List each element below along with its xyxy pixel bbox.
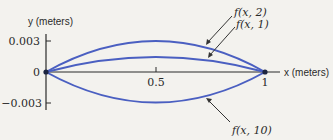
arrow-f10: [208, 100, 230, 122]
y-tick-label-zero: 0: [33, 66, 40, 79]
x-tick-label-mid: 0.5: [147, 76, 165, 89]
arrow-f2: [208, 16, 232, 42]
endpoint-right: [262, 69, 267, 74]
chart-figure: y (meters) 0.003 0 −0.003 0.5 1 x (meter…: [0, 0, 333, 140]
chart-svg: y (meters) 0.003 0 −0.003 0.5 1 x (meter…: [0, 0, 333, 140]
annotation-f-x-10: f(x, 10): [231, 124, 272, 137]
x-tick-label-end: 1: [262, 76, 269, 89]
y-axis-label: y (meters): [28, 16, 73, 27]
annotation-f-x-1: f(x, 1): [235, 18, 269, 31]
endpoint-left: [43, 69, 48, 74]
y-tick-label-bottom: −0.003: [1, 97, 42, 110]
y-tick-label-top: 0.003: [9, 35, 41, 48]
x-axis-label: x (meters): [284, 67, 329, 78]
arrowhead-icon: [206, 98, 212, 103]
arrow-f1: [210, 27, 235, 55]
